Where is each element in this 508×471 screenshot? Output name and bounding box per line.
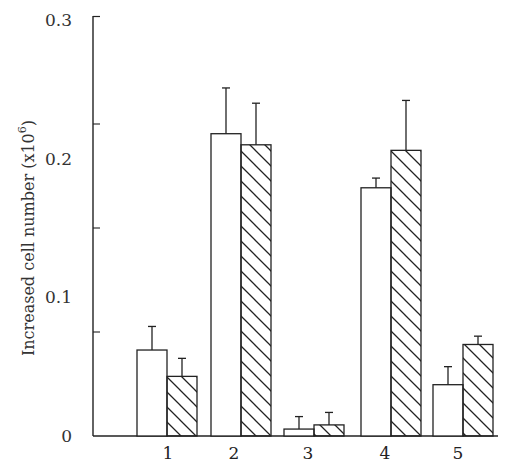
bar-open-2 bbox=[211, 134, 241, 436]
x-category-label: 3 bbox=[303, 443, 314, 463]
bar-hatched-4 bbox=[391, 150, 421, 436]
y-tick-label: 0 bbox=[61, 426, 72, 446]
bar-hatched-1 bbox=[167, 376, 197, 436]
y-tick-label: 0.2 bbox=[45, 149, 72, 169]
y-axis-title: Increased cell number (x106) bbox=[16, 120, 38, 356]
y-tick-label: 0.3 bbox=[45, 10, 72, 30]
bar-open-5 bbox=[433, 385, 463, 436]
x-category-label: 1 bbox=[163, 443, 174, 463]
x-category-label: 5 bbox=[453, 443, 464, 463]
bar-hatched-2 bbox=[241, 145, 271, 436]
bar-open-1 bbox=[137, 350, 167, 436]
bar-chart: 00.10.20.312345 Increased cell number (x… bbox=[0, 0, 508, 471]
x-category-label: 4 bbox=[380, 443, 391, 463]
bar-open-3 bbox=[284, 429, 314, 436]
bar-hatched-3 bbox=[314, 425, 344, 436]
bars bbox=[137, 88, 493, 436]
x-category-label: 2 bbox=[229, 443, 240, 463]
bar-open-4 bbox=[361, 188, 391, 436]
bar-hatched-5 bbox=[463, 344, 493, 436]
y-tick-label: 0.1 bbox=[45, 287, 72, 307]
y-axis bbox=[93, 16, 100, 436]
